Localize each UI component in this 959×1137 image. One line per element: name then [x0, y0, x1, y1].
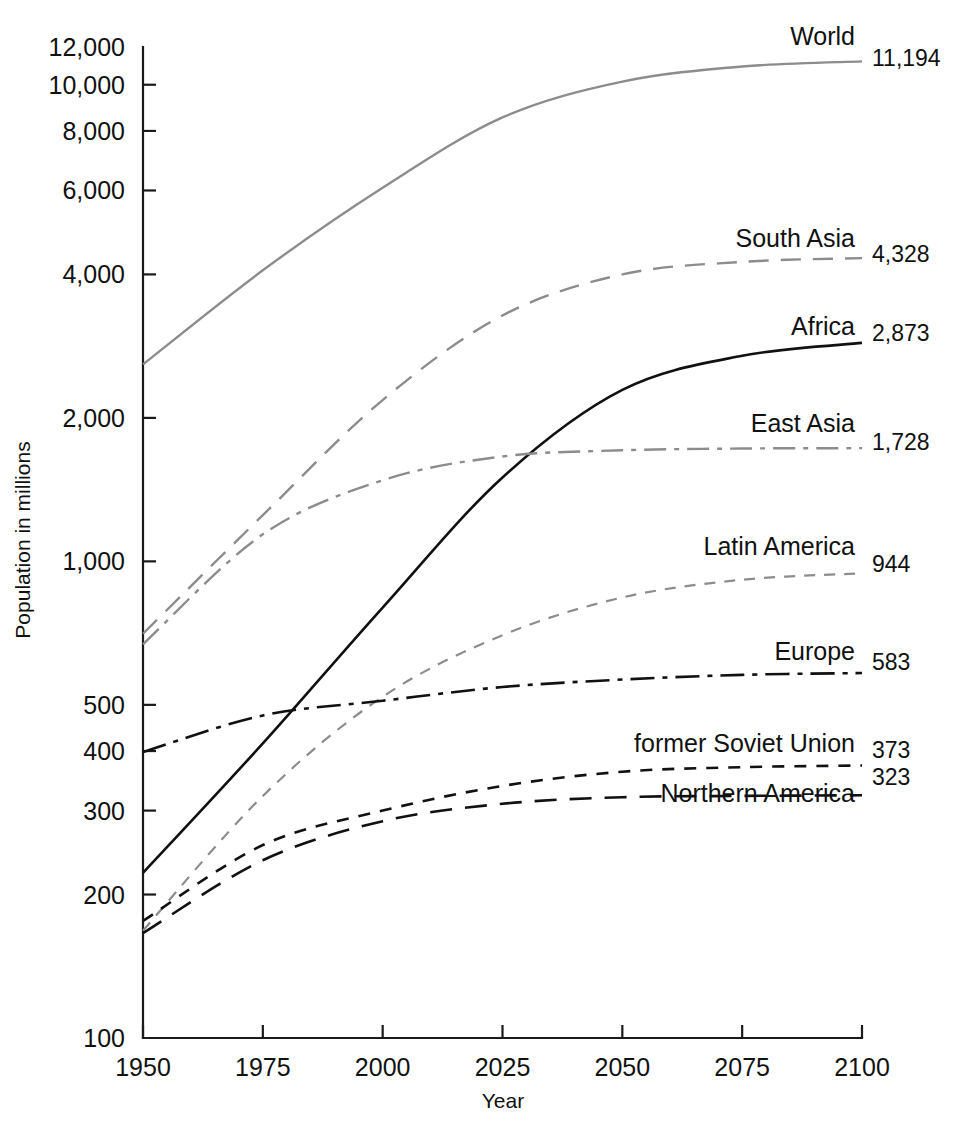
series-line-world	[143, 61, 862, 364]
x-axis-ticks: 1950197520002025205020752100	[115, 1025, 890, 1081]
series-label-latin-america: Latin America	[704, 532, 856, 560]
y-tick-label: 200	[83, 881, 125, 909]
y-axis-title: Population in millions	[11, 441, 34, 638]
x-tick-label: 2075	[714, 1053, 770, 1081]
series-end-value-europe: 583	[872, 649, 910, 675]
series-label-africa: Africa	[791, 312, 855, 340]
series-end-value-south-asia: 4,328	[872, 241, 930, 267]
y-tick-label: 1,000	[62, 547, 125, 575]
series-line-south-asia	[143, 258, 862, 634]
series-end-value-former-soviet-union: 373	[872, 737, 910, 763]
x-tick-label: 2100	[834, 1053, 890, 1081]
series-end-value-world: 11,194	[872, 45, 941, 71]
series-end-value-east-asia: 1,728	[872, 429, 930, 455]
y-tick-label: 4,000	[62, 260, 125, 288]
series-label-south-asia: South Asia	[735, 224, 855, 252]
y-tick-label: 400	[83, 737, 125, 765]
x-tick-label: 1950	[115, 1053, 171, 1081]
x-tick-label: 2000	[355, 1053, 411, 1081]
series-line-northern-america	[143, 795, 862, 933]
population-projection-line-chart: 1002003004005001,0002,0004,0006,0008,000…	[0, 0, 959, 1137]
series-end-value-latin-america: 944	[872, 551, 911, 577]
y-axis-ticks: 1002003004005001,0002,0004,0006,0008,000…	[49, 33, 156, 1052]
y-tick-label: 2,000	[62, 404, 125, 432]
x-tick-label: 2050	[595, 1053, 651, 1081]
series-label-former-soviet-union: former Soviet Union	[634, 729, 855, 757]
series-end-value-northern-america: 323	[872, 764, 910, 790]
chart-page: 1002003004005001,0002,0004,0006,0008,000…	[0, 0, 959, 1137]
series-label-east-asia: East Asia	[751, 409, 855, 437]
series-end-values: 11,1944,3282,8731,728944583373323	[872, 45, 941, 790]
x-tick-label: 2025	[475, 1053, 531, 1081]
y-tick-label: 10,000	[49, 71, 125, 99]
series-label-northern-america: Northern America	[660, 779, 855, 807]
y-tick-label: 500	[83, 691, 125, 719]
y-tick-label: 100	[83, 1024, 125, 1052]
y-tick-label: 8,000	[62, 117, 125, 145]
y-tick-label: 300	[83, 797, 125, 825]
y-tick-label: 6,000	[62, 176, 125, 204]
series-label-world: World	[790, 22, 855, 50]
series-labels: WorldSouth AsiaAfricaEast AsiaLatin Amer…	[634, 22, 855, 807]
x-tick-label: 1975	[235, 1053, 291, 1081]
series-end-value-africa: 2,873	[872, 320, 930, 346]
y-tick-label: 12,000	[49, 33, 125, 61]
x-axis-title: Year	[482, 1089, 524, 1112]
series-label-europe: Europe	[774, 637, 855, 665]
